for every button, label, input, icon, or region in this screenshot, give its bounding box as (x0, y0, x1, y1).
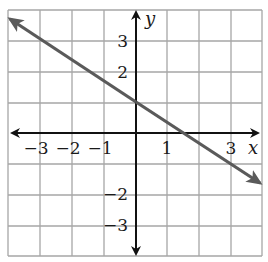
x-axis-label: x (248, 137, 258, 158)
y-tick-label: −2 (103, 184, 128, 204)
coordinate-plane: y x −3 −2 −1 1 3 3 2 −2 −3 (0, 0, 268, 262)
y-axis-label: y (144, 8, 156, 29)
y-tick-label: 2 (117, 62, 128, 82)
x-tick-label: −3 (23, 138, 48, 158)
x-tick-label: −1 (87, 138, 112, 158)
x-tick-label: −2 (55, 138, 80, 158)
y-tick-label: 3 (117, 31, 128, 51)
x-tick-label: 3 (226, 138, 237, 158)
x-tick-label: 1 (162, 138, 173, 158)
axes (12, 12, 258, 254)
y-tick-label: −3 (103, 215, 128, 235)
